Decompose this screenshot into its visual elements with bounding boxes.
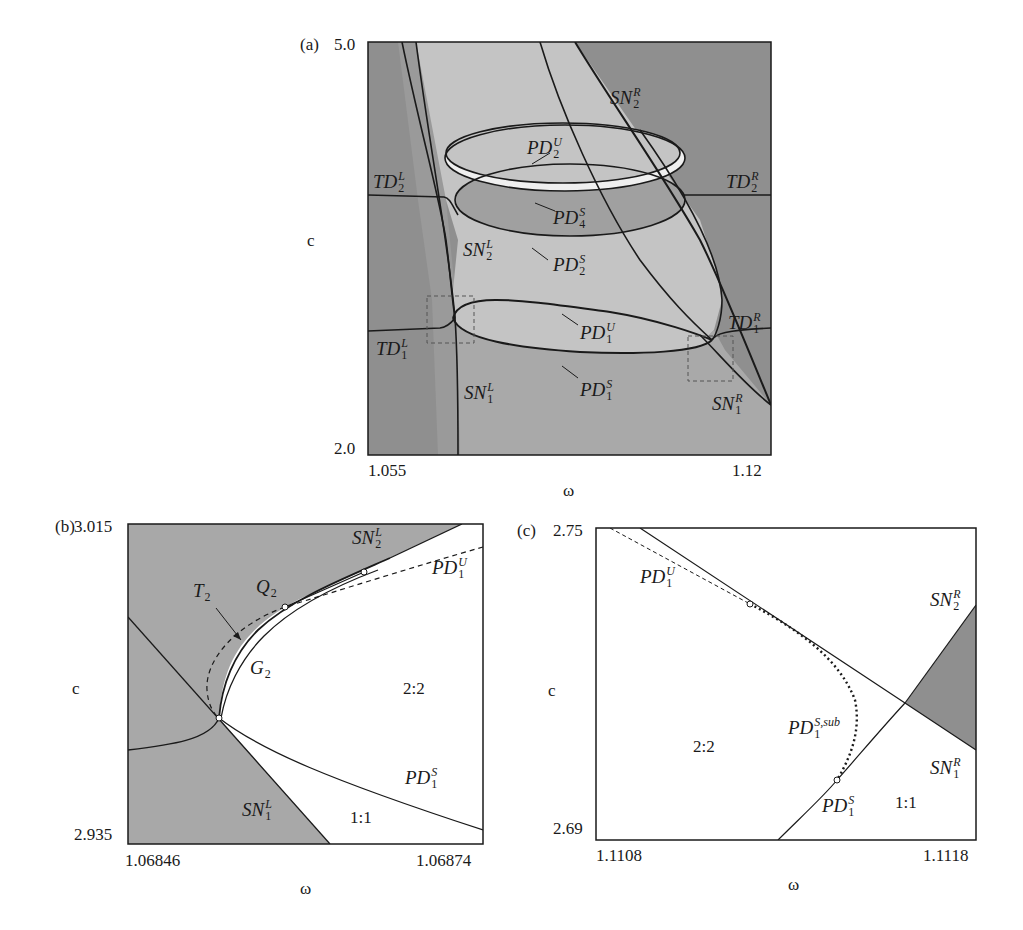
panel-c-ytick-top: 2.75 <box>553 522 583 539</box>
label-sn1r-c: SNR1 <box>930 758 961 782</box>
panel-c-plot <box>0 0 1023 930</box>
panel-c-xlabel: ω <box>788 876 799 893</box>
panel-c-tag: (c) <box>517 522 536 539</box>
label-pd1s-c: PDS1 <box>822 796 854 820</box>
panel-c: (c) 2.75 2.69 c 1.1108 1.1118 ω PDU1 SNR… <box>0 0 1023 930</box>
region-22-c: 2:2 <box>693 738 715 755</box>
label-pd1u-c: PDU1 <box>640 567 675 591</box>
panel-c-ylabel: c <box>548 682 556 699</box>
panel-c-ytick-bottom: 2.69 <box>553 820 583 837</box>
panel-c-xtick-left: 1.1108 <box>596 847 642 864</box>
label-pd1ssub-c: PDS,sub1 <box>788 718 840 742</box>
panel-c-xtick-right: 1.1118 <box>923 847 969 864</box>
region-11-c: 1:1 <box>895 794 917 811</box>
label-sn2r-c: SNR2 <box>930 590 961 614</box>
